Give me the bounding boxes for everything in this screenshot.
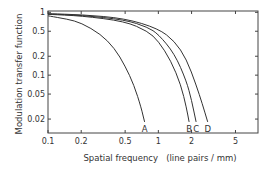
x-axis-title: Spatial frequency (line pairs / mm) — [83, 153, 236, 163]
plot-border — [48, 11, 258, 133]
x-tick-label: 0.1 — [42, 137, 55, 146]
y-axis-title: Modulation transfer function — [14, 14, 24, 135]
curve-label-c: C — [193, 124, 199, 134]
y-tick-label: 0.1 — [32, 71, 45, 80]
curves — [48, 14, 208, 122]
mtf-chart: 0.10.20.512510.50.20.10.050.02 ABCD Spat… — [0, 0, 272, 169]
curve-a — [48, 16, 145, 122]
y-tick-label: 0.5 — [32, 27, 45, 36]
y-tick-label: 1 — [40, 8, 45, 17]
y-tick-label: 0.05 — [27, 90, 45, 99]
y-tick-label: 0.2 — [32, 52, 45, 61]
x-tick-label: 1 — [156, 137, 161, 146]
curve-d — [48, 14, 208, 122]
curve-b — [48, 14, 189, 122]
x-tick-label: 0.2 — [75, 137, 88, 146]
curve-label-a: A — [142, 124, 148, 134]
x-tick-label: 2 — [189, 137, 194, 146]
x-tick-label: 0.5 — [119, 137, 132, 146]
plot-frame — [48, 11, 258, 133]
x-tick-label: 5 — [233, 137, 238, 146]
y-tick-label: 0.02 — [27, 115, 45, 124]
curve-labels: ABCD — [142, 124, 212, 134]
curve-label-b: B — [186, 124, 192, 134]
curve-label-d: D — [204, 124, 211, 134]
